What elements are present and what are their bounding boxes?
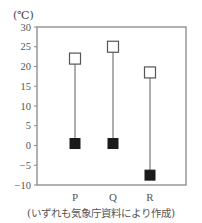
y-tick-label: 15 bbox=[21, 81, 32, 92]
x-category-label: R bbox=[146, 191, 154, 203]
low-marker-filled-square bbox=[108, 139, 118, 149]
low-marker-filled-square bbox=[145, 170, 155, 180]
low-marker-filled-square bbox=[70, 139, 80, 149]
y-tick-label: −5 bbox=[20, 160, 31, 171]
y-tick-label: 5 bbox=[26, 120, 31, 131]
y-tick-label: −10 bbox=[15, 180, 31, 191]
y-tick-label: 25 bbox=[21, 41, 32, 52]
y-tick-label: 10 bbox=[21, 101, 32, 112]
x-category-label: Q bbox=[109, 191, 117, 203]
high-marker-open-square bbox=[145, 67, 156, 78]
source-caption: (いずれも気象庁資料により作成) bbox=[0, 205, 202, 220]
high-marker-open-square bbox=[70, 53, 81, 64]
y-tick-label: 30 bbox=[21, 22, 32, 33]
y-tick-label: 0 bbox=[26, 140, 31, 151]
x-category-label: P bbox=[72, 191, 78, 203]
range-chart: 302520151050−5−10PQR bbox=[0, 0, 202, 223]
high-marker-open-square bbox=[108, 41, 119, 52]
y-tick-label: 20 bbox=[21, 61, 32, 72]
